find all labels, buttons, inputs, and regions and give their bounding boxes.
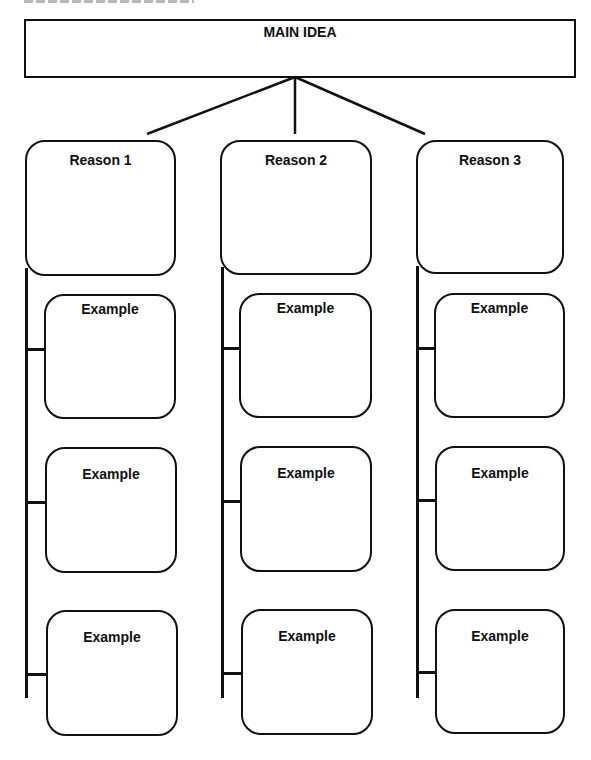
example-label: Example — [243, 628, 371, 644]
example-label: Example — [47, 466, 175, 482]
reason-1-example-1-connector — [25, 348, 45, 351]
reason-2-label: Reason 2 — [222, 152, 370, 168]
reason-2-example-1-connector — [221, 347, 240, 350]
example-label: Example — [48, 629, 176, 645]
reason-3-example-2-connector — [416, 499, 436, 502]
reason-2-example-2-connector — [221, 500, 241, 503]
example-label: Example — [242, 465, 370, 481]
reason-2-example-2-box[interactable]: Example — [240, 446, 372, 572]
reason-2-example-1-box[interactable]: Example — [239, 293, 372, 418]
example-label: Example — [437, 465, 563, 481]
reason-3-example-3-box[interactable]: Example — [435, 609, 565, 734]
reason-1-box[interactable]: Reason 1 — [25, 140, 176, 276]
reason-3-example-1-connector — [416, 347, 435, 350]
reason-1-label: Reason 1 — [27, 152, 174, 168]
example-label: Example — [241, 300, 370, 316]
reason-2-example-3-box[interactable]: Example — [241, 609, 373, 735]
reason-2-example-3-connector — [221, 672, 242, 675]
reason-1-example-2-connector — [25, 501, 46, 504]
reason-1-example-2-box[interactable]: Example — [45, 447, 177, 573]
reason-3-label: Reason 3 — [418, 152, 562, 168]
reason-3-spine — [416, 266, 419, 698]
reason-1-spine — [25, 268, 28, 698]
reason-3-example-3-connector — [416, 671, 436, 674]
reason-2-spine — [221, 267, 224, 698]
example-label: Example — [437, 628, 563, 644]
example-label: Example — [46, 301, 174, 317]
reason-1-example-3-box[interactable]: Example — [46, 610, 178, 736]
example-label: Example — [436, 300, 563, 316]
reason-3-example-1-box[interactable]: Example — [434, 293, 565, 418]
reason-3-box[interactable]: Reason 3 — [416, 140, 564, 274]
reason-2-box[interactable]: Reason 2 — [220, 140, 372, 275]
reason-3-example-2-box[interactable]: Example — [435, 446, 565, 571]
reason-1-example-1-box[interactable]: Example — [44, 294, 176, 419]
reason-1-example-3-connector — [25, 673, 47, 676]
